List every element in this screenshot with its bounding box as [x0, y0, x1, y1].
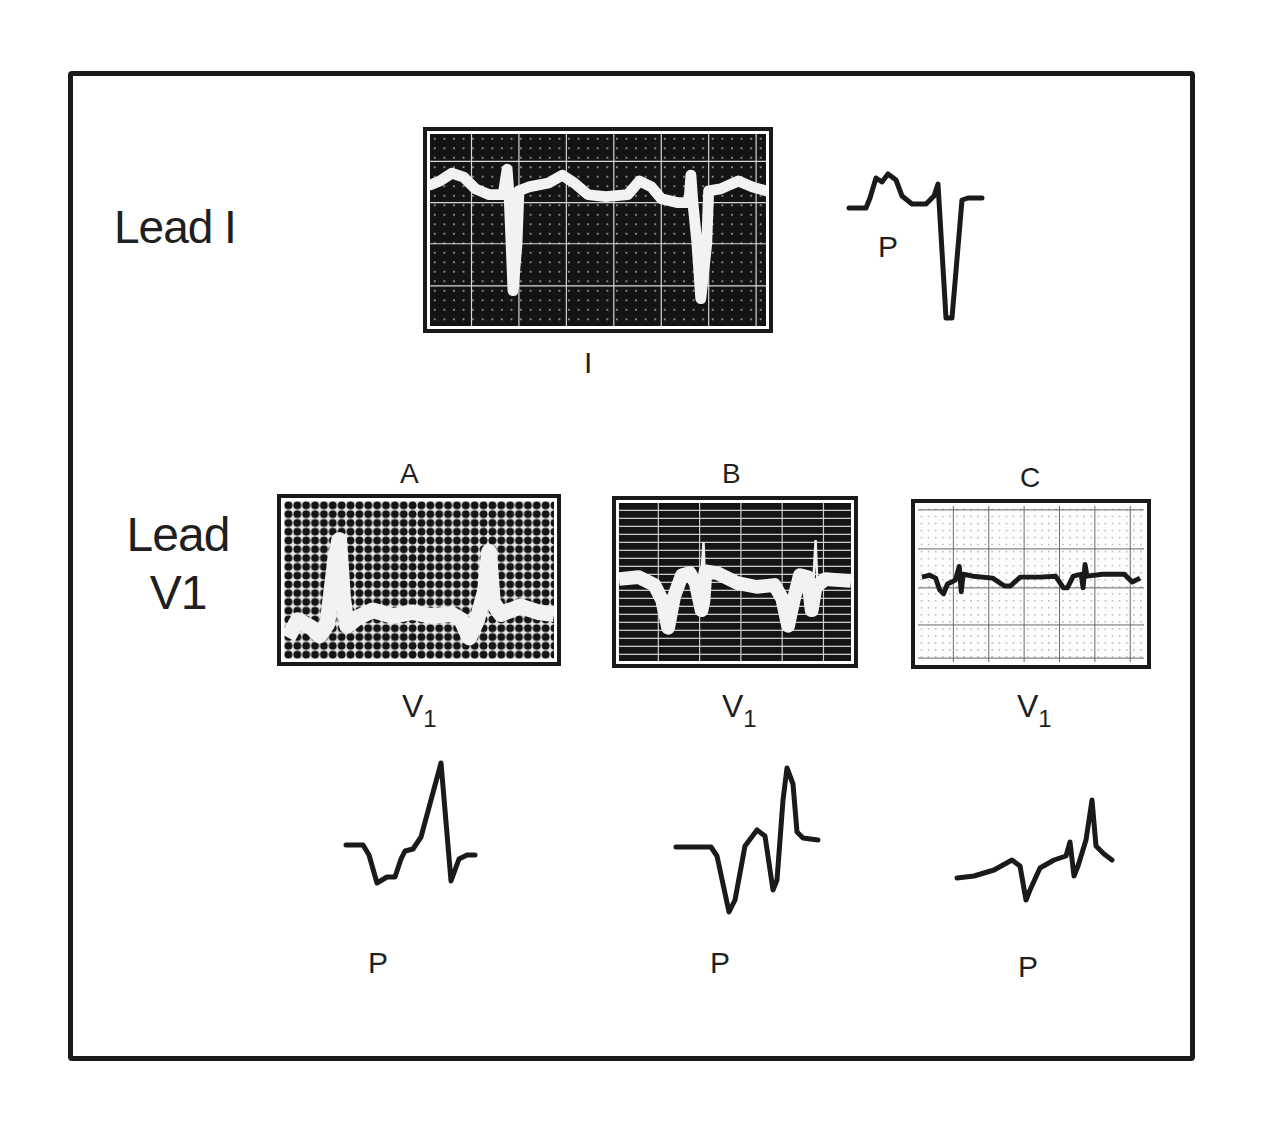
lead-i-p-wave-label: P: [878, 230, 898, 264]
lead-i-screen-caption: I: [584, 346, 592, 380]
panel-b-caption: V1: [722, 688, 757, 733]
lead-v1-title-line1: Lead: [118, 506, 238, 564]
panel-b-ecg-trace: [619, 503, 851, 661]
lead-v1-title: Lead V1: [118, 506, 238, 622]
panel-c-p-wave-label: P: [1018, 950, 1038, 984]
panel-a-oscilloscope-screen: [277, 494, 561, 666]
panel-a-caption-sub: 1: [423, 705, 436, 732]
panel-a-letter: A: [400, 458, 419, 490]
panel-b-oscilloscope-screen: [612, 496, 858, 668]
panel-a-schematic-waveform: [343, 755, 478, 890]
panel-b-caption-main: V: [722, 688, 743, 724]
panel-b-caption-sub: 1: [743, 705, 756, 732]
panel-c-oscilloscope-screen: [911, 499, 1151, 669]
panel-c-caption-main: V: [1017, 688, 1038, 724]
panel-a-caption: V1: [402, 688, 437, 733]
panel-c-letter: C: [1020, 462, 1040, 494]
panel-b-schematic-waveform: [673, 760, 818, 925]
lead-v1-title-line2: V1: [118, 564, 238, 622]
panel-c-schematic-waveform: [954, 790, 1119, 910]
panel-a-p-wave-label: P: [368, 946, 388, 980]
lead-i-title: Lead I: [114, 200, 236, 254]
panel-a-ecg-trace: [284, 501, 554, 659]
panel-b-letter: B: [722, 458, 741, 490]
panel-a-caption-main: V: [402, 688, 423, 724]
lead-i-oscilloscope-screen: [423, 127, 773, 333]
lead-i-ecg-trace: [430, 134, 766, 326]
panel-c-caption: V1: [1017, 688, 1052, 733]
panel-c-ecg-trace: [918, 506, 1144, 662]
lead-i-schematic-waveform: [846, 168, 986, 333]
panel-c-caption-sub: 1: [1038, 705, 1051, 732]
panel-b-p-wave-label: P: [710, 946, 730, 980]
